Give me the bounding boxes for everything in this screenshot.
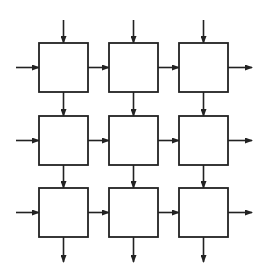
processing-cell-r2-c0 (39, 188, 88, 237)
processing-cell-r0-c1 (109, 43, 158, 92)
processing-cell-r0-c2 (179, 43, 228, 92)
processing-cell-r1-c0 (39, 116, 88, 165)
processing-cell-r0-c0 (39, 43, 88, 92)
processing-cells (39, 43, 228, 237)
processing-cell-r1-c1 (109, 116, 158, 165)
processing-cell-r2-c2 (179, 188, 228, 237)
processing-element-grid-diagram (0, 0, 266, 280)
processing-cell-r1-c2 (179, 116, 228, 165)
processing-cell-r2-c1 (109, 188, 158, 237)
